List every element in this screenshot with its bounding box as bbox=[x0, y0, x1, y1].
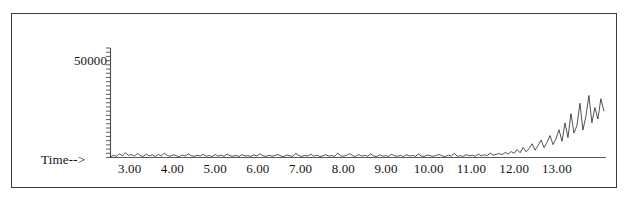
x-axis-tick-label: 6.00 bbox=[246, 161, 269, 177]
x-axis-title: Time--> bbox=[41, 152, 85, 168]
x-axis-tick-label: 9.00 bbox=[374, 161, 397, 177]
x-axis-tick-label: 12.00 bbox=[499, 161, 529, 177]
x-axis-tick-label: 11.00 bbox=[457, 161, 486, 177]
chromatogram-plot bbox=[0, 0, 630, 205]
y-axis-tick-label: 50000 bbox=[57, 53, 107, 69]
chromatogram-trace bbox=[111, 95, 604, 156]
x-axis-tick-label: 8.00 bbox=[332, 161, 355, 177]
x-axis-tick-label: 10.00 bbox=[414, 161, 444, 177]
chromatogram-figure: 50000 Time--> 3.004.005.006.007.008.009.… bbox=[0, 0, 630, 205]
x-axis-tick-label: 13.00 bbox=[542, 161, 572, 177]
x-axis-tick-label: 4.00 bbox=[161, 161, 184, 177]
x-axis-tick-label: 5.00 bbox=[204, 161, 227, 177]
x-axis-tick-label: 3.00 bbox=[118, 161, 141, 177]
x-axis-tick-label: 7.00 bbox=[289, 161, 312, 177]
